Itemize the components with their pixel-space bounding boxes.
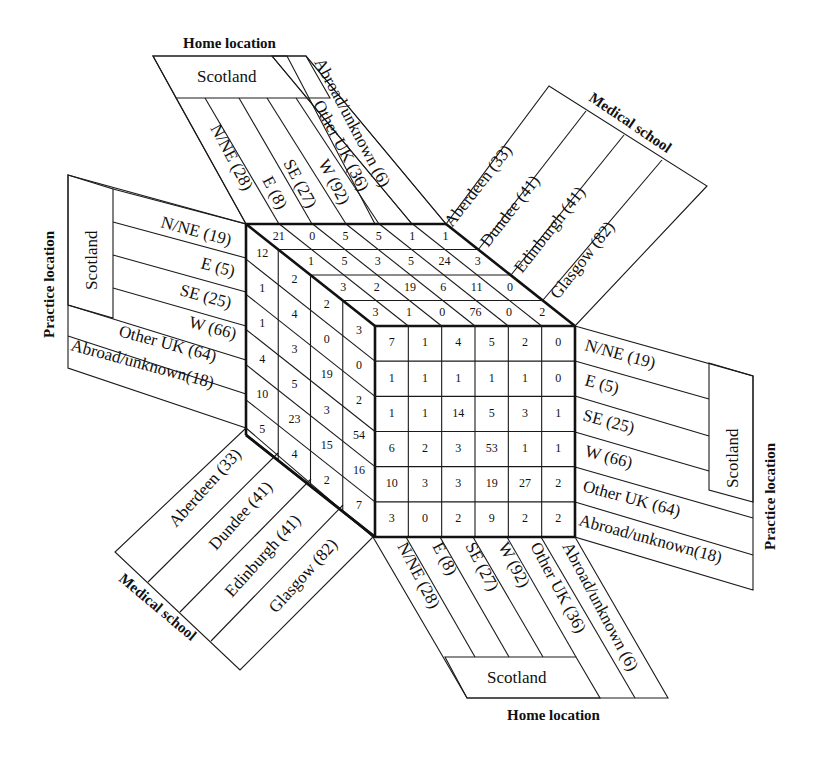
scotland-group-label-top: Scotland	[197, 67, 257, 86]
front-face-cell: 1	[555, 441, 561, 455]
front-face-cell: 1	[389, 371, 395, 385]
front-face-cell: 3	[455, 441, 461, 455]
top-face-cell: 2	[374, 280, 380, 294]
practice-label-right-se: SE (25)	[581, 406, 637, 438]
scotland-group-label-right: Scotland	[723, 428, 742, 488]
top-face-cell: 76	[470, 305, 482, 319]
left-face-cell: 1	[259, 281, 265, 295]
home-location-title-bottom: Home location	[507, 707, 601, 723]
practice-location-title-left: Practice location	[41, 230, 57, 338]
front-face-cell: 3	[389, 511, 395, 525]
top-face-cell: 0	[507, 280, 513, 294]
front-face-cell: 1	[555, 406, 561, 420]
cube-front-face: 7145201111101114531623531110331927230292…	[386, 335, 562, 525]
front-face-cell: 1	[422, 406, 428, 420]
front-face-cell: 5	[489, 335, 495, 349]
left-face-cell: 23	[288, 412, 300, 426]
left-face-cell: 7	[356, 498, 362, 512]
home-location-title-top: Home location	[183, 35, 277, 51]
top-face-cell: 1	[406, 305, 412, 319]
home-label-bottom-e: E (8)	[428, 539, 461, 578]
front-face-cell: 1	[522, 371, 528, 385]
top-face-cell: 3	[375, 254, 381, 268]
left-face-cell: 1	[259, 316, 265, 330]
practice-label-right-e: E (5)	[583, 371, 621, 398]
front-face-cell: 0	[555, 371, 561, 385]
front-face-cell: 1	[422, 335, 428, 349]
top-face-cell: 6	[440, 280, 446, 294]
front-face-cell: 2	[422, 441, 428, 455]
front-face-cell: 2	[522, 511, 528, 525]
top-face-cell: 21	[273, 229, 285, 243]
front-face-cell: 1	[489, 371, 495, 385]
contingency-cube-figure: Home location Scotland N/NE (28) E (8) S…	[0, 0, 826, 769]
practice-label-left-w: W (66)	[187, 313, 239, 344]
front-face-cell: 7	[389, 335, 395, 349]
left-face-cell: 0	[324, 332, 330, 346]
home-location-top-panel: Home location Scotland N/NE (28) E (8) S…	[153, 35, 446, 224]
top-face-cell: 0	[309, 229, 315, 243]
front-face-cell: 19	[486, 476, 498, 490]
top-face-cell: 5	[342, 229, 348, 243]
left-face-cell: 4	[291, 307, 297, 321]
medical-school-title-top: Medical school	[586, 89, 674, 156]
front-face-cell: 10	[386, 476, 398, 490]
top-face-cell: 2	[539, 305, 545, 319]
top-face-cell: 5	[408, 254, 414, 268]
scotland-group-label-left: Scotland	[82, 230, 101, 290]
front-face-cell: 4	[455, 335, 461, 349]
top-face-cell: 1	[308, 254, 314, 268]
practice-location-title-right: Practice location	[762, 442, 778, 550]
left-face-cell: 3	[291, 342, 297, 356]
practice-location-right-panel: Practice location Scotland N/NE (19) E (…	[575, 326, 778, 590]
top-face-cell: 0	[506, 305, 512, 319]
front-face-cell: 53	[486, 441, 498, 455]
left-face-cell: 19	[321, 367, 333, 381]
left-face-cell: 2	[291, 272, 297, 286]
front-face-cell: 14	[452, 406, 464, 420]
front-face-cell: 3	[522, 406, 528, 420]
front-face-cell: 1	[389, 406, 395, 420]
practice-label-right-abroad: Abroad/unknown(18)	[577, 511, 724, 567]
front-face-cell: 6	[389, 441, 395, 455]
left-face-cell: 3	[324, 403, 330, 417]
left-face-cell: 16	[353, 463, 365, 477]
front-face-cell: 0	[555, 335, 561, 349]
top-face-cell: 24	[438, 254, 450, 268]
medical-school-bottom-panel: Medical school Aberdeen (33) Dundee (41)…	[115, 428, 373, 670]
top-face-cell: 1	[442, 229, 448, 243]
top-face-cell: 5	[341, 254, 347, 268]
top-face-cell: 11	[471, 280, 483, 294]
practice-location-left-panel: Practice location Scotland N/NE (19) E (…	[41, 175, 246, 428]
left-face-cell: 2	[356, 393, 362, 407]
front-face-cell: 2	[555, 476, 561, 490]
practice-label-left-e: E (5)	[199, 254, 237, 281]
front-face-cell: 2	[522, 335, 528, 349]
home-label-top-nne: N/NE (28)	[206, 121, 257, 194]
front-face-cell: 2	[455, 511, 461, 525]
front-face-cell: 9	[489, 511, 495, 525]
cube-diagram: Home location Scotland N/NE (28) E (8) S…	[0, 0, 826, 769]
front-face-cell: 1	[455, 371, 461, 385]
left-face-cell: 12	[256, 246, 268, 260]
front-face-cell: 5	[489, 406, 495, 420]
top-face-cell: 1	[409, 229, 415, 243]
scotland-group-label-bottom: Scotland	[487, 668, 547, 687]
top-face-cell: 19	[404, 280, 416, 294]
left-face-cell: 2	[324, 297, 330, 311]
practice-label-right-w: W (66)	[583, 442, 635, 473]
front-face-cell: 2	[555, 511, 561, 525]
practice-label-left-se: SE (25)	[178, 281, 234, 313]
top-face-cell: 3	[340, 280, 346, 294]
left-face-cell: 3	[356, 323, 362, 337]
front-face-cell: 3	[422, 476, 428, 490]
left-face-cell: 4	[291, 447, 297, 461]
top-face-cell: 0	[439, 305, 445, 319]
top-face-cell: 3	[373, 305, 379, 319]
top-face-cell: 3	[475, 254, 481, 268]
top-face-cell: 5	[376, 229, 382, 243]
front-face-cell: 1	[422, 371, 428, 385]
left-face-cell: 0	[356, 358, 362, 372]
front-face-cell: 27	[519, 476, 531, 490]
home-location-bottom-panel: Home location Scotland N/NE (28) E (8) S…	[373, 537, 668, 723]
